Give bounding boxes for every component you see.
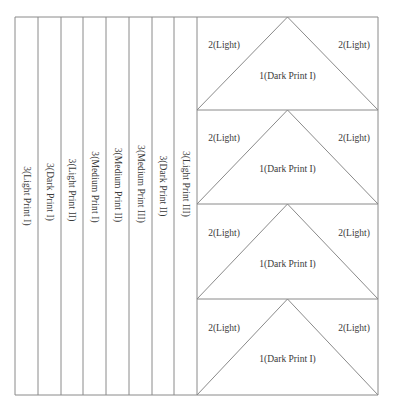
left-corner-label: 2(Light) (208, 40, 240, 50)
center-triangle-label: 1(Dark Print I) (259, 164, 315, 174)
left-corner-label: 2(Light) (208, 323, 240, 333)
left-corner-label: 2(Light) (208, 133, 240, 143)
center-triangle-label: 1(Dark Print I) (259, 354, 315, 364)
triangle-edge-right (288, 204, 379, 299)
triangle-edge-left (197, 204, 288, 299)
strip-label: 3(Dark Print I) (45, 163, 55, 221)
strip-label: 3(Light Print III) (181, 151, 191, 217)
strip-label: 3(Light Print II) (67, 159, 77, 222)
quilt-diagram: 3(Light Print I)3(Dark Print I)3(Light P… (0, 0, 396, 412)
left-corner-label: 2(Light) (208, 228, 240, 238)
strip-label: 3(Medium Print I) (90, 151, 100, 222)
diagram-lines (0, 0, 396, 412)
strip-label: 3(Light Print I) (22, 166, 32, 226)
triangle-edge-left (197, 299, 288, 395)
right-corner-label: 2(Light) (338, 133, 370, 143)
right-corner-label: 2(Light) (338, 323, 370, 333)
strip-label: 3(Medium Print III) (136, 145, 146, 223)
triangle-edge-right (288, 110, 379, 204)
right-corner-label: 2(Light) (338, 40, 370, 50)
triangle-edge-left (197, 110, 288, 204)
strip-label: 3(Medium Print II) (113, 148, 123, 223)
strip-label: 3(Dark Print II) (158, 155, 168, 216)
triangle-edge-right (288, 299, 379, 395)
triangle-edge-left (197, 17, 288, 110)
triangle-edge-right (288, 17, 379, 110)
center-triangle-label: 1(Dark Print I) (259, 71, 315, 81)
right-corner-label: 2(Light) (338, 228, 370, 238)
center-triangle-label: 1(Dark Print I) (259, 259, 315, 269)
